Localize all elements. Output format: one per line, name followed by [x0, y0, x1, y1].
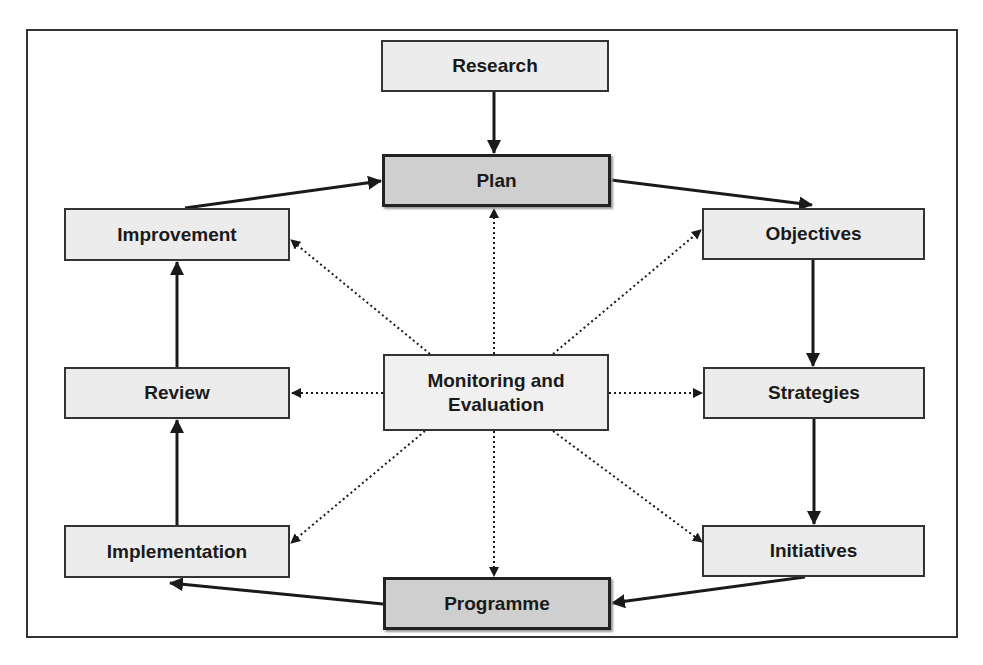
dotted-monitoring-implementation	[291, 431, 425, 543]
node-review: Review	[64, 367, 290, 419]
node-implementation: Implementation	[64, 525, 290, 578]
node-programme: Programme	[383, 577, 611, 630]
arrow-plan-objectives	[611, 180, 812, 205]
node-improvement: Improvement	[64, 208, 290, 261]
node-label: Research	[452, 54, 538, 78]
arrow-improvement-plan	[185, 181, 381, 208]
arrow-initiatives-programme	[612, 577, 805, 603]
dotted-monitoring-objectives	[553, 230, 701, 354]
node-label: Monitoring and Evaluation	[415, 369, 577, 417]
node-objectives: Objectives	[702, 208, 925, 260]
node-monitoring-evaluation: Monitoring and Evaluation	[383, 354, 609, 431]
node-label: Improvement	[117, 223, 236, 247]
node-strategies: Strategies	[703, 367, 925, 419]
node-label: Plan	[476, 169, 516, 193]
arrow-programme-implementation	[170, 583, 383, 604]
node-initiatives: Initiatives	[702, 525, 925, 577]
node-label: Objectives	[765, 222, 861, 246]
node-label: Strategies	[768, 381, 860, 405]
dotted-monitoring-improvement	[291, 240, 430, 354]
node-plan: Plan	[382, 154, 611, 207]
node-label: Implementation	[107, 540, 247, 564]
node-label: Review	[144, 381, 209, 405]
node-label: Programme	[444, 592, 550, 616]
node-label: Initiatives	[770, 539, 858, 563]
dotted-monitoring-initiatives	[553, 431, 702, 542]
node-research: Research	[381, 40, 609, 92]
